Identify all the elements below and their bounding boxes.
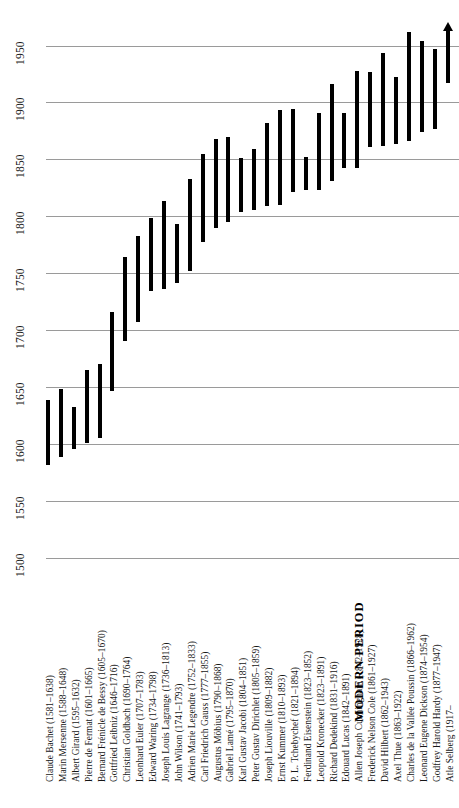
person-label: Gottfried Leibniz (1646–1716) [109, 664, 119, 782]
person-label: Atle Selberg (1917– [445, 705, 455, 782]
person-label: P. L. Tchebychef (1821–1894) [290, 667, 300, 782]
person-label: David Hilbert (1862–1943) [380, 678, 390, 782]
gridline-1550 [46, 501, 459, 502]
lifespan-bar [330, 84, 334, 181]
person-label: Christian Goldbach (1690–1764) [122, 657, 132, 782]
lifespan-bar [72, 407, 76, 449]
tick-label-1700: 1700 [14, 325, 26, 349]
open-ended-arrow-icon [443, 22, 453, 31]
tick-label-1550: 1550 [14, 496, 26, 520]
lifespan-bar [226, 137, 230, 222]
lifespan-bar [355, 71, 359, 169]
lifespan-bar [98, 364, 102, 438]
lifespan-bar [162, 201, 166, 289]
person-label: Albert Girard (1595–1632) [71, 679, 81, 782]
person-label: Godfrey Harold Hardy (1877–1947) [432, 644, 442, 782]
person-label: Marin Mersenne (1588–1648) [58, 668, 68, 782]
lifespan-bar [394, 77, 398, 144]
lifespan-bar [149, 218, 153, 291]
lifespan-bar [136, 236, 140, 322]
lifespan-bar [317, 113, 321, 190]
person-label: Karl Gustav Jacobi (1804–1851) [238, 658, 248, 782]
person-label: Carl Friedrich Gauss (1777–1855) [200, 652, 210, 782]
lifespan-bar [381, 53, 385, 145]
lifespan-bar [201, 154, 205, 243]
gridline-1800 [46, 216, 459, 217]
tick-label-1900: 1900 [14, 98, 26, 122]
person-label: Bernard Frénicle de Bessy (1605–1670) [97, 630, 107, 782]
lifespan-bar [110, 312, 114, 392]
lifespan-bar [265, 123, 269, 206]
lifespan-bar [420, 41, 424, 132]
lifespan-bar [291, 109, 295, 192]
lifespan-bar [252, 149, 256, 210]
lifespan-bar [85, 370, 89, 443]
lifespan-bar [59, 389, 63, 457]
lifespan-bar [342, 113, 346, 169]
gridline-1750 [46, 273, 459, 274]
lifespan-bar [188, 179, 192, 271]
lifespan-bar [446, 31, 450, 83]
person-label: Claude Bachet (1581–1638) [45, 675, 55, 782]
person-label: Charles de la Vallée Poussin (1866–1962) [406, 623, 416, 782]
person-label: Leonard Eugene Dickson (1874–1954) [419, 634, 429, 782]
person-label: Richard Dedekind (1831–1916) [329, 661, 339, 782]
person-label: Leopold Kronecker (1823–1891) [316, 657, 326, 782]
gridline-1500 [46, 558, 459, 559]
person-label: Gabriel Lamé (1795–1870) [225, 678, 235, 782]
tick-label-1800: 1800 [14, 211, 26, 235]
person-label: Frederick Nelson Cole (1861–1927) [367, 645, 377, 782]
person-label: Edouard Lucas (1842–1891) [341, 673, 351, 782]
gridline-1700 [46, 330, 459, 331]
person-label: Adrien Marie Legendre (1752–1833) [187, 641, 197, 782]
lifespan-bar [175, 224, 179, 283]
era-caption-modern-period: MODERN PERIOD [352, 602, 367, 722]
lifespan-bar [433, 49, 437, 129]
lifespan-bar [239, 158, 243, 211]
person-label: Augustus Möbius (1790–1868) [213, 663, 223, 782]
lifespan-bar [407, 32, 411, 141]
gridline-1600 [46, 444, 459, 445]
lifespan-bar [368, 72, 372, 147]
lifespan-bar [214, 139, 218, 228]
lifespan-bar [123, 257, 127, 341]
timeline-chart: 1500155016001650170017501800185019001950… [0, 0, 459, 808]
person-label: Pierre de Fermat (1601–1665) [84, 667, 94, 782]
gridline-1650 [46, 387, 459, 388]
person-label: Leonhard Euler (1707–1783) [135, 671, 145, 782]
tick-label-1500: 1500 [14, 553, 26, 577]
person-label: Edward Waring (1734–1798) [148, 671, 158, 782]
tick-label-1600: 1600 [14, 439, 26, 463]
gridline-1950 [46, 46, 459, 47]
person-label: Joseph Louis Lagrange (1736–1813) [161, 643, 171, 782]
person-label: Ferdinand Eisenstein (1823–1852) [303, 651, 313, 782]
person-label: Peter Gustav Dirichlet (1805–1859) [251, 646, 261, 782]
lifespan-bar [46, 400, 50, 465]
person-label: John Wilson (1741–1793) [174, 683, 184, 782]
tick-label-1850: 1850 [14, 154, 26, 178]
tick-label-1950: 1950 [14, 41, 26, 65]
person-label: Axel Thue (1863–1922) [393, 691, 403, 783]
lifespan-bar [304, 157, 308, 190]
lifespan-bar [278, 110, 282, 204]
tick-label-1750: 1750 [14, 268, 26, 292]
person-label: Joseph Liouville (1809–1882) [264, 668, 274, 782]
person-label: Ernst Kummer (1810–1893) [277, 675, 287, 782]
tick-label-1650: 1650 [14, 382, 26, 406]
